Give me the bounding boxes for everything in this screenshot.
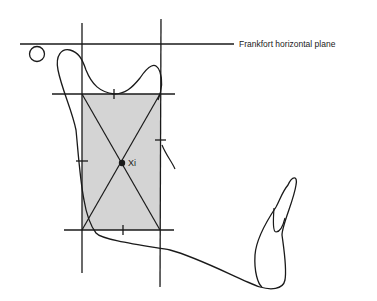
rectangle-right-vertical <box>160 19 161 287</box>
porion-circle <box>30 47 45 62</box>
xi-label: Xi <box>128 158 136 168</box>
coronoid-notch-curve <box>162 145 175 169</box>
xi-point <box>119 160 125 166</box>
frankfort-horizontal-label: Frankfort horizontal plane <box>239 39 335 49</box>
